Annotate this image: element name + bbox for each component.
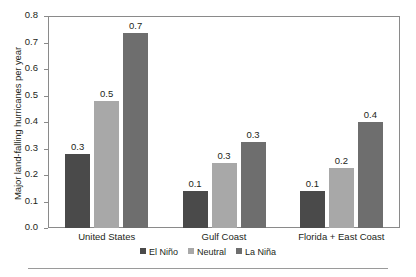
bar: 0.2	[329, 168, 354, 228]
bar-fill	[300, 191, 325, 228]
y-axis-tick-label: 0.0	[25, 221, 38, 232]
bar: 0.7	[123, 33, 148, 228]
bar-value-label: 0.5	[100, 88, 113, 99]
bar: 0.3	[212, 163, 237, 228]
footer-rule	[28, 268, 388, 269]
y-axis-tick-label: 0.8	[25, 9, 38, 20]
bar: 0.3	[65, 154, 90, 228]
bar-value-label: 0.2	[335, 155, 348, 166]
y-axis-title: Major land-falling hurricanes per year	[12, 19, 23, 229]
bar-fill	[212, 163, 237, 228]
bar-value-label: 0.3	[246, 129, 259, 140]
y-axis-tick-label: 0.2	[25, 168, 38, 179]
y-axis-tick-label: 0.3	[25, 142, 38, 153]
bar-group: 0.10.30.3	[183, 16, 266, 228]
bar-value-label: 0.7	[129, 20, 142, 31]
legend-swatch	[140, 248, 146, 254]
y-axis-tick-label: 0.7	[25, 36, 38, 47]
y-axis-tick-label: 0.1	[25, 195, 38, 206]
legend-label: El Niño	[149, 247, 178, 257]
bar-value-label: 0.1	[188, 178, 201, 189]
bar-fill	[241, 142, 266, 228]
legend-label: La Niña	[245, 247, 276, 257]
x-axis-category-label: Gulf Coast	[165, 231, 282, 242]
bar-fill	[123, 33, 148, 228]
bar-fill	[358, 122, 383, 228]
y-axis-tick-label: 0.4	[25, 115, 38, 126]
bar-value-label: 0.3	[71, 141, 84, 152]
bar-value-label: 0.3	[217, 150, 230, 161]
bar: 0.1	[300, 191, 325, 228]
bar-fill	[183, 191, 208, 228]
y-axis-tick-label: 0.6	[25, 62, 38, 73]
legend-item: La Niña	[236, 246, 276, 257]
hurricane-bar-chart: Major land-falling hurricanes per year 0…	[0, 0, 416, 277]
bar-fill	[329, 168, 354, 228]
y-axis-tick-label: 0.5	[25, 89, 38, 100]
chart-legend: El NiñoNeutralLa Niña	[0, 246, 416, 257]
legend-swatch	[188, 248, 194, 254]
bar-fill	[94, 101, 119, 228]
legend-swatch	[236, 248, 242, 254]
bar-group: 0.30.50.7	[65, 16, 148, 228]
bar-group: 0.10.20.4	[300, 16, 383, 228]
x-axis-category-label: United States	[48, 231, 165, 242]
bar-fill	[65, 154, 90, 228]
legend-item: Neutral	[188, 246, 226, 257]
bar-value-label: 0.1	[306, 178, 319, 189]
y-axis-tick-mark	[44, 228, 48, 229]
x-axis-category-label: Florida + East Coast	[283, 231, 400, 242]
bar-value-label: 0.4	[364, 109, 377, 120]
bar: 0.5	[94, 101, 119, 228]
bar: 0.4	[358, 122, 383, 228]
bar-groups: 0.30.50.70.10.30.30.10.20.4	[48, 16, 400, 228]
bar: 0.1	[183, 191, 208, 228]
legend-label: Neutral	[197, 247, 226, 257]
bar: 0.3	[241, 142, 266, 228]
legend-item: El Niño	[140, 246, 178, 257]
